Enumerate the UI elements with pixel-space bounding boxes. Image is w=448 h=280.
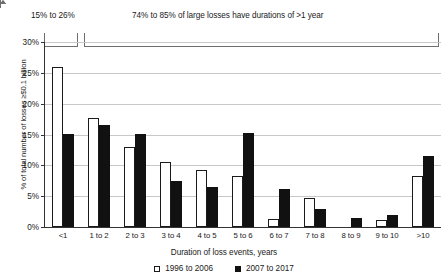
bar[interactable] (268, 219, 279, 227)
annotation-label-short-duration: 15% to 26% (31, 11, 75, 20)
x-tick-label: 5 to 6 (234, 231, 253, 240)
bar[interactable] (124, 147, 135, 227)
x-tick-label: 2 to 3 (126, 231, 145, 240)
x-tick-label: 6 to 7 (270, 231, 289, 240)
bar-group: 9 to 10 (369, 42, 405, 227)
legend-label: 1996 to 2006 (165, 264, 213, 273)
x-tick-label: >10 (417, 231, 430, 240)
y-tick-label: 30% (5, 38, 39, 47)
bar-group: 2 to 3 (117, 42, 153, 227)
bar[interactable] (63, 134, 74, 227)
annotation-label-long-duration: 74% to 85% of large losses have duration… (132, 11, 324, 20)
chart-legend: 1996 to 20062007 to 2017 (0, 264, 448, 273)
y-tick-label: 0% (5, 223, 39, 232)
x-tick-label: 7 to 8 (306, 231, 325, 240)
x-tick-label: <1 (59, 231, 68, 240)
bars-layer: <11 to 22 to 33 to 44 to 55 to 66 to 77 … (45, 42, 441, 227)
bar-group: 8 to 9 (333, 42, 369, 227)
annotation-tick-long (0, 0, 6, 4)
y-tick-label: 25% (5, 68, 39, 77)
bar[interactable] (304, 198, 315, 227)
bar[interactable] (232, 176, 243, 227)
bar[interactable] (387, 215, 398, 227)
x-tick-label: 9 to 10 (375, 231, 398, 240)
legend-label: 2007 to 2017 (246, 264, 294, 273)
bar[interactable] (423, 156, 434, 227)
bar-group: 1 to 2 (81, 42, 117, 227)
y-tick-label: 10% (5, 161, 39, 170)
legend-item[interactable]: 1996 to 2006 (154, 264, 213, 273)
legend-swatch-filled-icon (235, 266, 241, 272)
bar[interactable] (135, 134, 146, 227)
bar[interactable] (412, 176, 423, 227)
y-tick-label: 20% (5, 99, 39, 108)
bar[interactable] (279, 189, 290, 227)
x-tick-label: 8 to 9 (342, 231, 361, 240)
x-tick-label: 3 to 4 (162, 231, 181, 240)
bar[interactable] (351, 218, 362, 227)
bar-group: 7 to 8 (297, 42, 333, 227)
bar[interactable] (171, 181, 182, 227)
bar[interactable] (243, 133, 254, 227)
bar-group: 4 to 5 (189, 42, 225, 227)
x-tick-label: 4 to 5 (198, 231, 217, 240)
legend-swatch-hollow-icon (154, 266, 160, 272)
bar[interactable] (196, 170, 207, 227)
bar-group: 5 to 6 (225, 42, 261, 227)
y-tick-mark (41, 227, 45, 228)
annotation-band: 15% to 26% 74% to 85% of large losses ha… (0, 0, 448, 40)
bar[interactable] (52, 67, 63, 227)
bar[interactable] (315, 209, 326, 228)
bar-group: 3 to 4 (153, 42, 189, 227)
plot-area: 30%25%20%15%10%5%0% <11 to 22 to 33 to 4… (44, 42, 441, 228)
bar-group: <1 (45, 42, 81, 227)
bar[interactable] (99, 125, 110, 227)
bar[interactable] (207, 187, 218, 227)
x-axis-title: Duration of loss events, years (0, 248, 448, 257)
bar[interactable] (160, 162, 171, 227)
bar-chart: % of total number of losses ≥$0.1 billio… (0, 0, 448, 280)
bar[interactable] (376, 220, 387, 227)
bar-group: >10 (405, 42, 441, 227)
bar[interactable] (88, 118, 99, 227)
x-tick-label: 1 to 2 (90, 231, 109, 240)
y-tick-label: 15% (5, 130, 39, 139)
legend-item[interactable]: 2007 to 2017 (235, 264, 294, 273)
bar-group: 6 to 7 (261, 42, 297, 227)
y-tick-label: 5% (5, 192, 39, 201)
